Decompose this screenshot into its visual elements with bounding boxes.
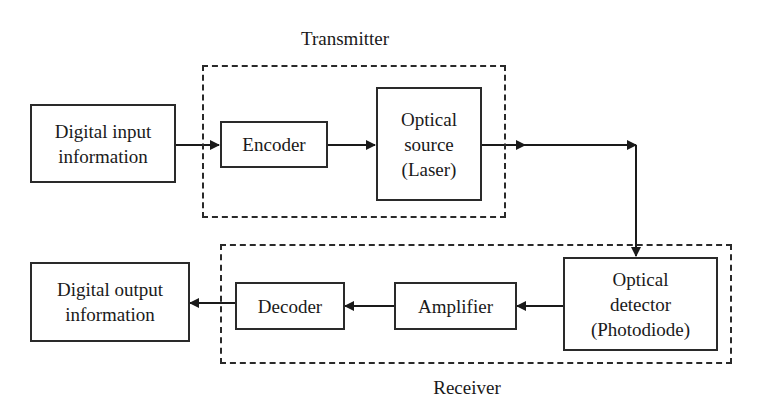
optical-detector-line-1: Optical (613, 267, 669, 292)
digital-input-line-2: information (58, 144, 148, 169)
optical-detector-line-2: detector (610, 292, 671, 317)
digital-output-line-2: information (65, 302, 155, 327)
decoder-label: Decoder (258, 294, 322, 319)
encoder-label: Encoder (242, 132, 305, 157)
receiver-label: Receiver (433, 377, 501, 399)
transmitter-label: Transmitter (301, 28, 389, 50)
optical-source-line-1: Optical (401, 107, 457, 132)
digital-output-block: Digital output information (30, 262, 190, 342)
amplifier-label: Amplifier (418, 294, 493, 319)
optical-detector-block: Optical detector (Photodiode) (563, 257, 718, 351)
digital-output-line-1: Digital output (57, 277, 163, 302)
optical-source-line-3: (Laser) (402, 157, 457, 182)
optical-source-line-2: source (404, 132, 454, 157)
digital-input-block: Digital input information (30, 104, 176, 183)
optical-detector-line-3: (Photodiode) (591, 317, 690, 342)
amplifier-block: Amplifier (394, 282, 517, 330)
encoder-block: Encoder (220, 121, 328, 168)
digital-input-line-1: Digital input (55, 119, 152, 144)
optical-source-block: Optical source (Laser) (376, 87, 482, 201)
decoder-block: Decoder (235, 282, 345, 330)
